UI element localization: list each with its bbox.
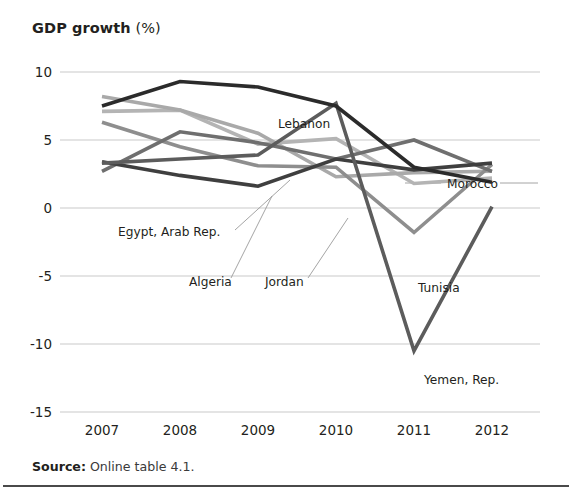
- series-label-lebanon: Lebanon: [278, 117, 330, 131]
- chart-title-bold: GDP growth: [32, 20, 131, 36]
- source-value: Online table 4.1.: [86, 459, 195, 474]
- x-axis-tick-label: 2009: [241, 422, 275, 438]
- page-title: GDP growth (%): [32, 20, 161, 36]
- source-label: Source:: [32, 459, 86, 474]
- y-axis-tick-label: -15: [30, 404, 52, 420]
- line-chart-svg: 1050-5-10-15 200720082009201020112012 Le…: [0, 50, 574, 440]
- series-line-tunisia: [102, 122, 492, 232]
- source-note: Source: Online table 4.1.: [32, 459, 195, 474]
- x-axis-tick-label: 2011: [397, 422, 431, 438]
- series-label-algeria: Algeria: [189, 275, 232, 289]
- annotation-leader-line: [308, 218, 348, 278]
- series-label-jordan: Jordan: [264, 275, 304, 289]
- x-axis-tick-labels: 200720082009201020112012: [85, 422, 509, 438]
- x-axis-tick-label: 2012: [475, 422, 509, 438]
- y-axis-tick-labels: 1050-5-10-15: [30, 64, 52, 420]
- y-axis-tick-label: 5: [43, 132, 52, 148]
- y-axis-tick-label: -10: [30, 336, 52, 352]
- y-axis-tick-label: -5: [39, 268, 52, 284]
- chart-plot-area: 1050-5-10-15 200720082009201020112012 Le…: [0, 50, 574, 440]
- annotation-leader-line: [235, 180, 290, 230]
- series-label-tunisia: Tunisia: [417, 281, 460, 295]
- series-label-yemen-rep: Yemen, Rep.: [423, 373, 499, 387]
- x-axis-tick-label: 2007: [85, 422, 119, 438]
- y-axis-tick-label: 10: [35, 64, 52, 80]
- x-axis-tick-label: 2008: [163, 422, 197, 438]
- bottom-divider: [3, 485, 569, 487]
- x-axis-tick-label: 2010: [319, 422, 353, 438]
- chart-title-unit: (%): [131, 20, 161, 36]
- series-label-morocco: Morocco: [447, 177, 498, 191]
- annotation-leader-lines: [231, 180, 538, 278]
- gdp-growth-figure: GDP growth (%) 1050-5-10-15 200720082009…: [0, 0, 574, 504]
- y-axis-tick-label: 0: [43, 200, 52, 216]
- series-label-egypt-arab-rep: Egypt, Arab Rep.: [118, 225, 220, 239]
- series-line-jordan: [102, 97, 492, 177]
